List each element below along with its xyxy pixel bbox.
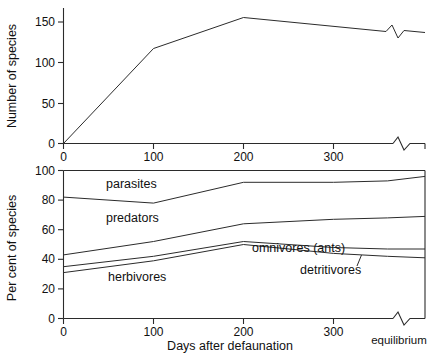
top-x-ticks (64, 144, 426, 150)
bottom-x-ticks (64, 319, 334, 325)
top-x-tick-label-300: 300 (323, 150, 343, 164)
top-y-tick-label-150: 150 (35, 15, 55, 29)
bottom-x-tick-label-200: 200 (233, 325, 253, 339)
top-y-axis-title: Number of species (5, 24, 19, 128)
top-series-break-zigzag (386, 25, 425, 38)
top-x-tick-label-200: 200 (233, 150, 253, 164)
bottom-y-tick-label-40: 40 (42, 252, 56, 266)
top-y-tick-label-50: 50 (42, 97, 56, 111)
bottom-x-axis-break-zigzag (393, 312, 425, 325)
band-label-predators: predators (106, 211, 159, 225)
bottom-y-tick-label-60: 60 (42, 223, 56, 237)
bottom-y-tick-label-80: 80 (42, 193, 56, 207)
bottom-boundary-detritivores-top (64, 242, 426, 267)
top-x-tick-label-100: 100 (143, 150, 163, 164)
top-y-tick-label-0: 0 (48, 137, 55, 151)
bottom-y-tick-label-0: 0 (48, 312, 55, 326)
band-label-herbivores: herbivores (108, 270, 166, 284)
top-y-ticks (58, 22, 64, 144)
figure-root: 0 50 100 150 0 100 200 300 Number of spe… (0, 0, 444, 360)
bottom-chart: 0 20 40 60 80 100 0 100 200 300 parasite… (5, 164, 427, 354)
bottom-y-ticks (58, 171, 64, 319)
equilibrium-label: equilibrium (371, 334, 427, 346)
top-x-tick-label-0: 0 (60, 150, 67, 164)
bottom-y-axis-title: Per cent of species (5, 195, 19, 301)
bottom-y-tick-label-20: 20 (42, 282, 56, 296)
band-label-detritivores: detritivores (300, 263, 361, 277)
top-x-axis-break-zigzag (393, 137, 425, 150)
top-series-number-of-species (64, 18, 387, 144)
bottom-y-tick-label-100: 100 (35, 164, 55, 178)
bottom-x-tick-label-0: 0 (60, 325, 67, 339)
bottom-x-axis-title: Days after defaunation (167, 339, 293, 353)
band-label-omnivores: omnivores (ants) (252, 241, 345, 255)
bottom-x-tick-label-100: 100 (143, 325, 163, 339)
band-label-parasites: parasites (106, 177, 157, 191)
bottom-x-tick-label-300: 300 (323, 325, 343, 339)
top-y-tick-label-100: 100 (35, 56, 55, 70)
top-chart: 0 50 100 150 0 100 200 300 Number of spe… (5, 8, 425, 164)
